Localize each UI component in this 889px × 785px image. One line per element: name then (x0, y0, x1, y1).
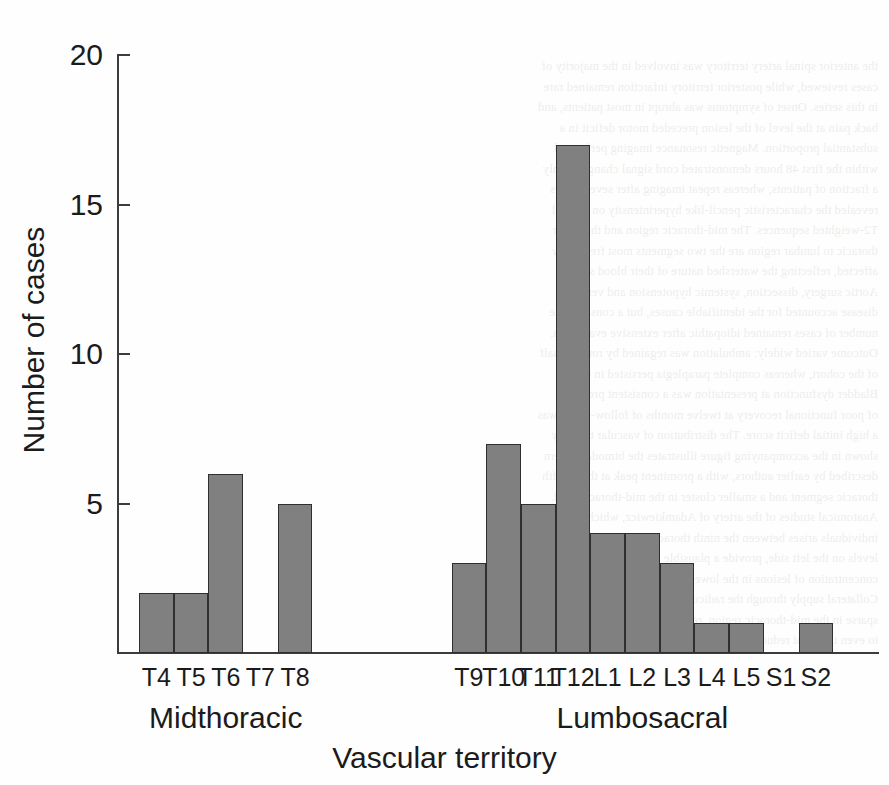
y-axis-title: Number of cases (14, 40, 54, 640)
bar-l5 (729, 623, 764, 653)
x-axis-label-t8: T8 (274, 662, 317, 692)
y-axis-tick-label: 10 (70, 339, 103, 369)
bar-t11 (521, 504, 556, 654)
bar-chart-plot: 5101520 Number of cases T4T5T6T7T8T9T10T… (0, 0, 889, 785)
figure-container: the anterior spinal artery territory was… (0, 0, 889, 785)
group-label-midthoracic: Midthoracic (66, 700, 386, 736)
x-axis-label-s2: S2 (795, 662, 838, 692)
y-axis-tick-label: 5 (86, 489, 103, 519)
bar-t9 (452, 563, 487, 653)
bar-l3 (660, 563, 695, 653)
group-label-lumbosacral: Lumbosacral (482, 700, 802, 736)
bar-l4 (694, 623, 729, 653)
bar-t5 (174, 593, 209, 653)
bar-t8 (278, 504, 313, 654)
bar-t10 (486, 444, 521, 653)
bar-l2 (625, 533, 660, 653)
bars-layer (117, 55, 879, 653)
bar-l1 (590, 533, 625, 653)
bar-t4 (139, 593, 174, 653)
y-axis-tick-label: 20 (70, 40, 103, 70)
x-axis-title: Vascular territory (0, 740, 889, 776)
bar-t6 (208, 474, 243, 653)
bar-t12 (556, 145, 591, 653)
bar-s2 (799, 623, 834, 653)
y-axis-tick-label: 15 (70, 190, 103, 220)
